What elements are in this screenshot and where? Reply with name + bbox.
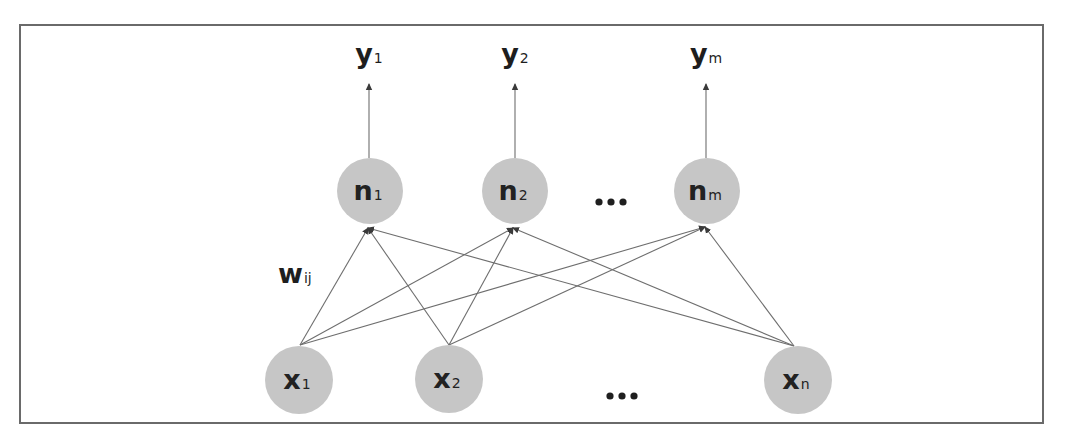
hidden-node-nm: nm [674, 158, 740, 224]
edge-x1-nm [300, 227, 705, 345]
output-connections [369, 84, 706, 158]
ellipsis-group [595, 198, 637, 399]
hidden-layer: n1n2nm [337, 158, 740, 224]
output-label-y2: y2 [501, 38, 529, 69]
input-node-xn: xn [764, 346, 832, 414]
edge-xn-n1 [368, 228, 794, 346]
hidden-node-n2: n2 [482, 158, 548, 224]
input-node-x1: x1 [265, 346, 333, 414]
output-label-y1: y1 [355, 38, 383, 69]
neural-network-diagram: n1n2nm x1x2xn y1y2ym wij [0, 0, 1066, 444]
hidden-ellipsis [595, 198, 626, 205]
ellipsis-dot [619, 198, 626, 205]
weight-connections [300, 227, 794, 346]
edge-x2-n1 [368, 228, 449, 345]
ellipsis-dot [618, 392, 625, 399]
edge-xn-nm [705, 227, 794, 346]
diagram-frame [20, 25, 1043, 423]
ellipsis-dot [606, 392, 613, 399]
ellipsis-dot [607, 198, 614, 205]
input-node-x2: x2 [415, 345, 483, 413]
ellipsis-dot [595, 198, 602, 205]
edge-x1-n1 [300, 228, 368, 345]
hidden-node-n1: n1 [337, 158, 403, 224]
weight-label: wij [278, 258, 312, 289]
output-labels: y1y2ym [355, 38, 722, 69]
input-ellipsis [606, 392, 637, 399]
input-layer: x1x2xn [265, 345, 832, 414]
edge-xn-n2 [513, 228, 794, 346]
output-label-ym: ym [690, 38, 722, 69]
ellipsis-dot [630, 392, 637, 399]
